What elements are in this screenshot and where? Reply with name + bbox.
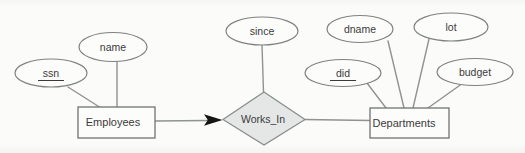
connector-dname-departments xyxy=(388,41,404,108)
connector-since-worksin xyxy=(262,45,264,92)
connector-did-departments xyxy=(367,83,386,108)
attribute-label-since: since xyxy=(250,25,275,37)
attribute-label-did: did xyxy=(336,67,350,79)
connector-lot-departments xyxy=(413,39,429,108)
attribute-label-lot: lot xyxy=(445,21,456,33)
er-diagram: ssn name since did dname lot budget Empl… xyxy=(0,0,525,153)
connector-worksin-departments xyxy=(305,120,370,121)
er-diagram-canvas: ssn name since did dname lot budget Empl… xyxy=(0,0,525,153)
attribute-label-name: name xyxy=(100,41,126,53)
attribute-label-budget: budget xyxy=(459,66,491,78)
attribute-label-ssn: ssn xyxy=(43,67,60,79)
connector-budget-departments xyxy=(428,83,463,108)
connector-employees-worksin xyxy=(155,121,208,122)
connector-ssn-employees xyxy=(68,87,101,108)
attribute-label-dname: dname xyxy=(344,23,376,35)
entity-label-departments: Departments xyxy=(373,117,436,129)
entity-label-employees: Employees xyxy=(86,116,141,128)
relationship-label-works-in: Works_In xyxy=(241,113,285,125)
